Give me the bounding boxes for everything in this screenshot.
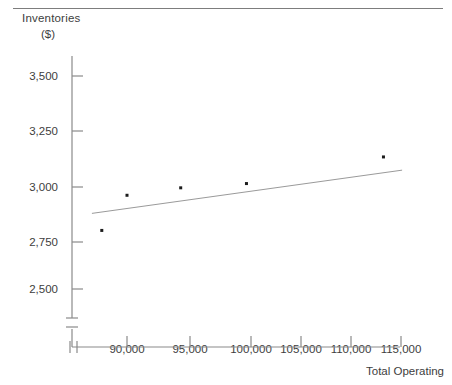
data-point [100,229,103,232]
data-point-group [100,155,385,231]
data-point [382,155,385,158]
data-point [179,186,182,189]
trend-line [92,170,402,213]
chart-container: Inventories ($) Total Operating 3,500 3,… [0,0,452,385]
plot-area [0,0,452,385]
data-point [126,194,129,197]
data-point [245,182,248,185]
